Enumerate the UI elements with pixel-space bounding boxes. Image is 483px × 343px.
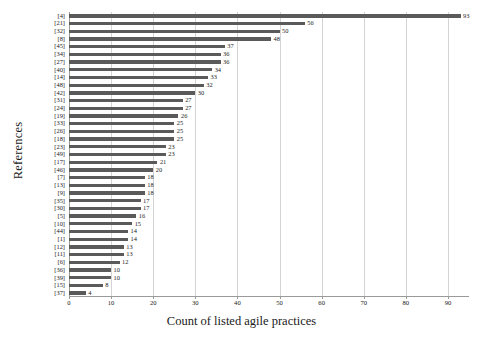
x-axis-title: Count of listed agile practices (0, 314, 483, 329)
y-axis-title: References (8, 0, 30, 300)
x-tick-label: 30 (192, 299, 199, 306)
x-tick-label: 70 (360, 299, 367, 306)
bar-value-label: 36 (223, 59, 229, 65)
bar-value-label: 18 (147, 190, 153, 196)
bar-value-label: 12 (122, 259, 128, 265)
bar-value-label: 27 (185, 97, 191, 103)
bar (69, 91, 195, 94)
bar (69, 222, 132, 225)
bar (69, 199, 141, 202)
y-tick-label: [23] (54, 144, 65, 150)
bar-value-label: 33 (210, 74, 216, 80)
bar (69, 268, 111, 271)
x-tick-label: 60 (318, 299, 325, 306)
bar (69, 284, 103, 287)
bar (69, 30, 280, 33)
bar (69, 214, 136, 217)
bar-value-label: 27 (185, 105, 191, 111)
y-tick-label: [10] (54, 221, 65, 227)
y-tick-label: [5] (58, 213, 65, 219)
x-tick-label: 10 (108, 299, 115, 306)
bar-value-label: 18 (147, 174, 153, 180)
y-tick-label: [32] (54, 28, 65, 34)
bar (69, 230, 128, 233)
bar (69, 291, 86, 294)
bar-value-label: 23 (168, 151, 174, 157)
y-tick-label: [6] (58, 259, 65, 265)
y-tick-label: [9] (58, 190, 65, 196)
bars-container: 9356504837363634333230272726252525232321… (69, 12, 469, 297)
y-tick-label: [1] (58, 236, 65, 242)
x-tick-label: 0 (67, 299, 70, 306)
bar-value-label: 30 (198, 90, 204, 96)
bar-value-label: 16 (139, 213, 145, 219)
bar (69, 245, 124, 248)
bar-value-label: 50 (282, 28, 288, 34)
bar (69, 45, 225, 48)
bar-value-label: 48 (274, 36, 280, 42)
bar (69, 99, 183, 102)
y-tick-label: [49] (54, 151, 65, 157)
bar-value-label: 34 (215, 67, 221, 73)
bar (69, 122, 174, 125)
y-tick-label: [30] (54, 205, 65, 211)
bar (69, 37, 271, 40)
bar-value-label: 15 (135, 221, 141, 227)
y-tick-label: [15] (54, 282, 65, 288)
y-tick-label: [21] (54, 20, 65, 26)
y-tick-label: [17] (54, 159, 65, 165)
bar (69, 114, 178, 117)
bar (69, 253, 124, 256)
y-tick-label: [19] (54, 113, 65, 119)
y-tick-label: [27] (54, 59, 65, 65)
y-tick-label: [48] (54, 82, 65, 88)
bar-value-label: 32 (206, 82, 212, 88)
plot-area: 9356504837363634333230272726252525232321… (69, 12, 469, 297)
bar (69, 191, 145, 194)
y-tick-label: [14] (54, 74, 65, 80)
x-tick-label: 50 (276, 299, 283, 306)
y-tick-label: [11] (55, 251, 65, 257)
bar-value-label: 25 (177, 136, 183, 142)
bar (69, 14, 461, 17)
bar-value-label: 17 (143, 205, 149, 211)
bar (69, 207, 141, 210)
bar (69, 238, 128, 241)
bar (69, 22, 305, 25)
bar-value-label: 56 (307, 20, 313, 26)
y-tick-label: [18] (54, 136, 65, 142)
y-tick-label: [35] (54, 198, 65, 204)
y-tick-label: [42] (54, 90, 65, 96)
y-axis-title-text: References (12, 121, 27, 179)
y-tick-label: [13] (54, 182, 65, 188)
bar (69, 76, 208, 79)
bar (69, 68, 212, 71)
bar (69, 53, 221, 56)
y-tick-label: [45] (54, 43, 65, 49)
y-tick-label: [34] (54, 51, 65, 57)
bar (69, 130, 174, 133)
bar-value-label: 14 (130, 236, 136, 242)
x-axis-line (69, 296, 469, 297)
bar (69, 137, 174, 140)
y-tick-label: [46] (54, 167, 65, 173)
y-tick-label: [36] (54, 267, 65, 273)
bar-value-label: 13 (126, 251, 132, 257)
bar (69, 276, 111, 279)
y-tick-label: [8] (58, 36, 65, 42)
bar (69, 84, 204, 87)
x-tick-label: 90 (445, 299, 452, 306)
y-tick-label: [24] (54, 105, 65, 111)
bar-value-label: 26 (181, 113, 187, 119)
bar-value-label: 25 (177, 120, 183, 126)
bar-value-label: 8 (105, 282, 108, 288)
bar-value-label: 18 (147, 182, 153, 188)
bar (69, 153, 166, 156)
bar-value-label: 10 (114, 267, 120, 273)
x-tick-label: 80 (403, 299, 410, 306)
bar-value-label: 20 (156, 167, 162, 173)
x-tick-label: 20 (150, 299, 157, 306)
bar-value-label: 10 (114, 275, 120, 281)
x-tick-label: 40 (234, 299, 241, 306)
y-tick-label: [40] (54, 67, 65, 73)
